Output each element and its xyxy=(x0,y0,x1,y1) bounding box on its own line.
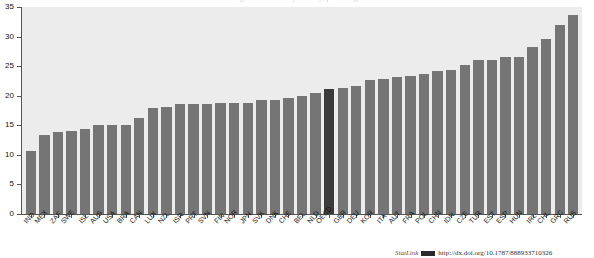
bar-est xyxy=(487,60,497,214)
bar-isr xyxy=(175,104,185,214)
x-label-mex: MEX xyxy=(39,219,49,253)
x-label-pol: POL xyxy=(419,219,429,253)
x-axis-tick-labels: INDMEXZAFSWEISLAUSUSABRACANLUXNZLISRPRTS… xyxy=(22,219,582,253)
y-tick-35 xyxy=(17,7,22,8)
bar-jpn xyxy=(243,103,253,214)
bar-lux xyxy=(148,108,158,214)
bar-tur xyxy=(473,60,483,214)
y-tick-10 xyxy=(17,155,22,156)
bar-isl xyxy=(80,129,90,214)
bar-ind xyxy=(26,151,36,214)
bar-series xyxy=(22,7,582,214)
y-tick-0 xyxy=(17,214,22,215)
bar-ita xyxy=(378,79,388,214)
bar-prt xyxy=(188,104,198,214)
y-label-35: 35 xyxy=(5,3,14,11)
x-label-prt: PRT xyxy=(188,219,198,253)
bar-idn xyxy=(446,70,456,214)
bar-svn xyxy=(202,104,212,214)
bar-deu xyxy=(351,86,361,214)
bar-svk xyxy=(256,100,266,214)
x-label-svn: SVN xyxy=(202,219,212,253)
bar-swe xyxy=(66,131,76,214)
bar-fra xyxy=(405,76,415,214)
bar-dnk xyxy=(270,100,280,214)
x-label-aut: AUT xyxy=(392,219,402,253)
x-label-fin: FIN xyxy=(215,219,225,253)
x-label-rus: RUS xyxy=(568,219,578,253)
x-label-est: EST xyxy=(487,219,497,253)
x-label-irl: IRL xyxy=(527,219,537,253)
y-label-20: 20 xyxy=(5,92,14,100)
bar-nor xyxy=(229,103,239,214)
x-label-idn: IDN xyxy=(446,219,456,253)
y-label-10: 10 xyxy=(5,151,14,159)
bar-chl xyxy=(541,39,551,214)
bar-mex xyxy=(39,135,49,214)
bar-hun xyxy=(514,57,524,214)
x-label-ita: ITA xyxy=(378,219,388,253)
x-label-hun: HUN xyxy=(514,219,524,253)
bar-esp xyxy=(500,57,510,214)
bar-rus xyxy=(568,15,578,214)
bar-gbr xyxy=(338,88,348,214)
x-label-zaf: ZAF xyxy=(53,219,63,253)
x-label-swe: SWE xyxy=(66,219,76,253)
bar-chn xyxy=(432,71,442,214)
y-label-30: 30 xyxy=(5,33,14,41)
y-label-0: 0 xyxy=(10,210,14,218)
x-label-grc: GRC xyxy=(555,219,565,253)
x-label-svk: SVK xyxy=(256,219,266,253)
y-label-25: 25 xyxy=(5,62,14,70)
y-tick-25 xyxy=(17,66,22,67)
statlink-footer: StatLink http://dx.doi.org/10.1787/88893… xyxy=(0,250,594,258)
x-label-lux: LUX xyxy=(148,219,158,253)
x-label-can: CAN xyxy=(134,219,144,253)
x-label-usa: USA xyxy=(107,219,117,253)
bar-usa xyxy=(107,125,117,214)
x-label-esp: ESP xyxy=(500,219,510,253)
y-label-15: 15 xyxy=(5,121,14,129)
bar-nld xyxy=(310,93,320,214)
x-label-tur: TUR xyxy=(473,219,483,253)
bar-zaf xyxy=(53,132,63,214)
x-label-bra: BRA xyxy=(121,219,131,253)
bar-kor xyxy=(365,80,375,214)
bar-chart: Figure: indicator by country, percentage… xyxy=(0,0,594,258)
plot-area xyxy=(22,7,582,214)
bar-nzl xyxy=(161,107,171,214)
y-tick-20 xyxy=(17,96,22,97)
x-label-deu: DEU xyxy=(351,219,361,253)
x-label-isr: ISR xyxy=(175,219,185,253)
x-label-jpn: JPN xyxy=(243,219,253,253)
bar-oecd xyxy=(324,89,334,214)
x-label-cze: CZE xyxy=(460,219,470,253)
bar-aus xyxy=(93,125,103,214)
x-label-fra: FRA xyxy=(405,219,415,253)
chart-title-clipped: Figure: indicator by country, percentage xyxy=(0,0,594,6)
bar-bra xyxy=(121,125,131,214)
bar-grc xyxy=(555,25,565,214)
x-label-aus: AUS xyxy=(93,219,103,253)
x-label-nor: NOR xyxy=(229,219,239,253)
x-label-isl: ISL xyxy=(80,219,90,253)
y-tick-5 xyxy=(17,184,22,185)
x-label-gbr: GBR xyxy=(338,219,348,253)
x-label-oecd: OECD xyxy=(324,219,334,253)
x-label-ind: IND xyxy=(26,219,36,253)
statlink-url[interactable]: http://dx.doi.org/10.1787/888933710326 xyxy=(438,250,552,257)
x-label-che: CHE xyxy=(283,219,293,253)
bar-bel xyxy=(297,96,307,214)
bar-aut xyxy=(392,77,402,214)
x-label-dnk: DNK xyxy=(270,219,280,253)
statlink-label: StatLink xyxy=(395,250,418,257)
bar-cze xyxy=(460,65,470,214)
statlink-badge-icon xyxy=(421,251,435,256)
x-label-chn: CHN xyxy=(432,219,442,253)
x-label-nzl: NZL xyxy=(161,219,171,253)
y-tick-15 xyxy=(17,125,22,126)
x-label-bel: BEL xyxy=(297,219,307,253)
y-tick-30 xyxy=(17,37,22,38)
chart-title-text: Figure: indicator by country, percentage xyxy=(233,0,361,2)
bar-che xyxy=(283,98,293,214)
